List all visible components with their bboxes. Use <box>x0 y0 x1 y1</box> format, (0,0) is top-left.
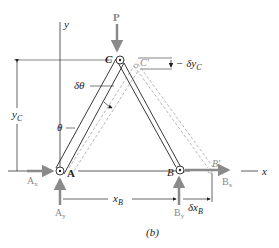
force-by-label: By <box>174 207 185 220</box>
xb-label: xB <box>112 192 123 207</box>
delta-theta-label: δθ <box>74 79 85 91</box>
label-c: C <box>105 53 113 65</box>
virtual-work-diagram: y x yC − δyC θ δθ P C <box>0 0 279 248</box>
member-cb <box>116 59 184 173</box>
force-bx-label: Bx <box>222 176 233 189</box>
label-a: A <box>67 167 75 179</box>
figure-caption: (b) <box>146 226 159 239</box>
y-axis-label: y <box>63 18 69 30</box>
force-ay-label: Ay <box>55 207 66 220</box>
x-axis-label: x <box>261 165 267 177</box>
displaced-members <box>69 64 213 171</box>
c-prime-pin <box>134 64 138 68</box>
label-b-prime: B′ <box>212 158 221 169</box>
label-b: B <box>167 166 174 178</box>
label-c-prime: C′ <box>140 57 150 68</box>
theta-label: θ <box>57 121 63 133</box>
delta-xb-label: δxB <box>188 201 203 216</box>
delta-yc-label: − δyC <box>176 57 202 72</box>
member-ac <box>56 59 124 174</box>
force-ax-label: Ax <box>27 175 38 188</box>
yc-label: yC <box>11 108 23 123</box>
force-p-label: P <box>113 11 120 23</box>
